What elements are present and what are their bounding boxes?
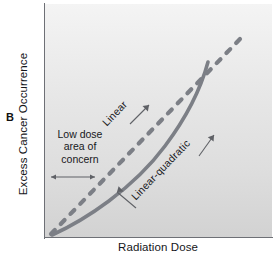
y-axis-label: Excess Cancer Occurrence	[17, 39, 29, 209]
annotation-low-dose-line-1: Low dose	[50, 128, 110, 140]
y-axis-line	[44, 3, 45, 239]
linear-quadratic-upper-arrow	[199, 135, 214, 156]
plot-graphics	[45, 4, 272, 238]
linear-pointer-arrow	[130, 105, 149, 124]
annotation-low-dose-line-2: area of	[50, 140, 110, 152]
low-dose-range-arrow	[51, 174, 95, 179]
x-axis-line	[44, 237, 273, 238]
annotation-low-dose-line-3: concern	[50, 153, 110, 165]
annotation-low-dose-area: Low dose area of concern	[50, 128, 110, 165]
x-axis-label: Radiation Dose	[44, 241, 272, 253]
plot-area	[45, 4, 272, 238]
panel-letter: B	[6, 112, 14, 123]
